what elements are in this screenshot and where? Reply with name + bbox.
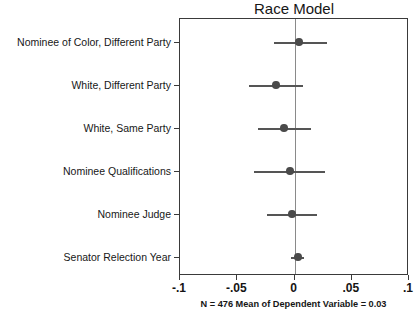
x-axis-tick-0 <box>179 275 180 280</box>
point-estimate-marker <box>286 167 294 175</box>
x-axis-ticklabel-1: -.05 <box>206 281 266 295</box>
estimate-row <box>180 36 407 50</box>
plot-area <box>180 19 407 274</box>
estimate-row <box>180 165 407 179</box>
y-axis-label-2: White, Same Party <box>83 121 171 135</box>
x-axis-ticklabel-0: -.1 <box>149 281 209 295</box>
estimate-row <box>180 122 407 136</box>
estimate-row <box>180 251 407 265</box>
y-axis-label-1: White, Different Party <box>71 78 171 92</box>
coefficient-plot-figure: Race Model Nominee of Color, Different P… <box>0 0 418 317</box>
x-axis-tick-1 <box>236 275 237 280</box>
x-axis-ticklabel-3: .05 <box>321 281 381 295</box>
estimate-row <box>180 79 407 93</box>
estimate-row <box>180 208 407 222</box>
plot-frame <box>179 18 408 275</box>
x-axis-ticklabel-2: 0 <box>264 281 324 295</box>
point-estimate-marker <box>288 210 296 218</box>
x-axis-ticklabel-4: .1 <box>378 281 418 295</box>
y-axis-label-3: Nominee Qualifications <box>63 164 171 178</box>
point-estimate-marker <box>272 81 280 89</box>
chart-footnote: N = 476 Mean of Dependent Variable = 0.0… <box>179 299 408 309</box>
point-estimate-marker <box>295 38 303 46</box>
x-axis-tick-4 <box>408 275 409 280</box>
page-title: Race Model <box>179 0 409 18</box>
x-axis-tick-3 <box>351 275 352 280</box>
y-axis-label-4: Nominee Judge <box>97 207 171 221</box>
zero-reference-line <box>295 19 296 274</box>
y-axis-label-5: Senator Relection Year <box>64 250 171 264</box>
x-axis-tick-2 <box>294 275 295 280</box>
point-estimate-marker <box>294 253 302 261</box>
point-estimate-marker <box>280 124 288 132</box>
y-axis-label-0: Nominee of Color, Different Party <box>17 35 171 49</box>
